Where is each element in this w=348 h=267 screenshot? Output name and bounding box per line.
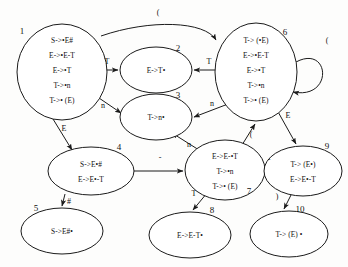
- state-10-item: T-> (E) •: [275, 230, 302, 239]
- state-number-4: 4: [117, 142, 122, 152]
- edge-label-1-to-2: T: [105, 57, 110, 66]
- edge-label-6-to-3: n: [210, 99, 214, 108]
- state-1-item: E->•T: [53, 66, 72, 75]
- state-2-item: E->T•: [147, 66, 166, 75]
- state-7-item: T->• (E): [212, 182, 238, 191]
- edge-label-1-to-3: n: [101, 101, 105, 110]
- edge-label-4-to-7: -: [159, 153, 162, 162]
- state-4-item: S->E•#: [80, 160, 102, 169]
- edge-label-9-to-10: ): [276, 192, 279, 201]
- state-5-item: S->E#•: [51, 227, 73, 236]
- state-1-item: E->•E-T: [49, 51, 75, 60]
- state-9-item: E->E•-T: [290, 175, 316, 184]
- edge-9-to-10: [284, 195, 291, 209]
- state-number-9: 9: [325, 141, 330, 151]
- state-number-6: 6: [283, 27, 288, 37]
- state-6-item: T->• (E): [243, 96, 269, 105]
- state-node-9[interactable]: [264, 146, 342, 196]
- edge-label-4-to-5: #: [67, 197, 71, 206]
- edge-7-to-6: [242, 124, 255, 145]
- state-6-item: T->•n: [247, 81, 264, 90]
- state-1-item: T->•n: [53, 81, 70, 90]
- edge-label-7-to-8: T: [192, 189, 197, 198]
- edge-label-7-to-3: n: [187, 140, 191, 149]
- state-9-item: T-> (E•): [290, 160, 316, 169]
- state-number-7: 7: [247, 186, 252, 196]
- state-6-item: E->•E-T: [243, 51, 269, 60]
- state-3-item: T->n•: [147, 113, 165, 122]
- state-7-item: T->•n: [216, 167, 233, 176]
- edge-label-7-to-6: (: [250, 130, 253, 139]
- state-6-item: E->•T: [247, 66, 266, 75]
- state-4-item: E->E•-T: [78, 175, 104, 184]
- edge-label-6-to-9: E: [286, 111, 291, 120]
- edge-1-to-6: [101, 24, 216, 40]
- edge-label-1-to-4: E: [62, 124, 67, 133]
- edge-label-9-to-7: -: [268, 155, 271, 164]
- state-number-1: 1: [20, 26, 25, 36]
- state-1-item: T->• (E): [49, 96, 75, 105]
- state-number-10: 10: [296, 204, 306, 214]
- state-number-5: 5: [34, 203, 39, 213]
- edge-4-to-5: [62, 194, 65, 206]
- automaton-diagram: S->•E# E->•E-T E->•T T->•n T->• (E) E->T…: [0, 0, 348, 267]
- state-7-item: E->E-•T: [212, 152, 238, 161]
- state-number-8: 8: [210, 205, 215, 215]
- diagram-canvas: S->•E# E->•E-T E->•T T->•n T->• (E) E->T…: [0, 0, 348, 267]
- state-8-item: E->E-T•: [177, 231, 203, 240]
- edge-label-1-to-6: (: [157, 8, 160, 17]
- edge-label-6-to-2: T: [207, 57, 212, 66]
- edge-6-self-loop: [293, 58, 323, 92]
- state-1-item: S->•E#: [51, 36, 73, 45]
- state-6-item: T-> (•E): [243, 36, 269, 45]
- state-number-3: 3: [176, 90, 181, 100]
- state-node-4[interactable]: [48, 147, 134, 195]
- edge-label-6-self: (: [326, 36, 329, 45]
- state-number-2: 2: [176, 43, 181, 53]
